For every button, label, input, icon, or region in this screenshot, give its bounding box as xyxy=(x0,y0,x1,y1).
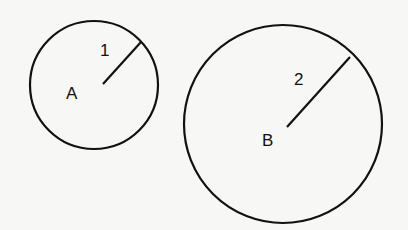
circle-b-radius-line xyxy=(287,57,350,127)
circles-diagram: A 1 B 2 xyxy=(0,0,408,230)
circle-b-radius-label: 2 xyxy=(294,70,303,89)
circle-a-group: A 1 xyxy=(30,21,158,149)
circle-b-center-label: B xyxy=(262,131,273,150)
circle-a xyxy=(30,21,158,149)
circle-a-radius-label: 1 xyxy=(100,41,109,60)
circle-b xyxy=(184,25,382,223)
circle-a-center-label: A xyxy=(66,84,78,103)
circle-b-group: B 2 xyxy=(184,25,382,223)
